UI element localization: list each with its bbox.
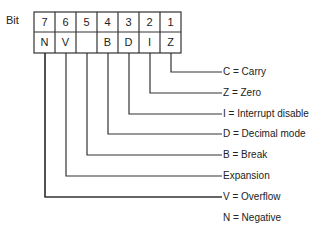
legend-zero: Z = Zero [223, 87, 261, 99]
flag-unused [76, 32, 97, 52]
bit-number-6: 6 [55, 12, 76, 32]
flag-V: V [55, 32, 76, 52]
legend-overflow: V = Overflow [223, 191, 281, 203]
flag-I: I [139, 32, 160, 52]
bit-number-5: 5 [76, 12, 97, 32]
legend-break: B = Break [223, 149, 267, 161]
legend-expansion: Expansion [223, 170, 270, 182]
bit-number-4: 4 [97, 12, 118, 32]
bit-number-2: 2 [139, 12, 160, 32]
flag-D: D [118, 32, 139, 52]
bit-number-7: 7 [34, 12, 55, 32]
bit-number-0-spacer [160, 12, 181, 32]
legend-carry: C = Carry [223, 66, 266, 78]
flag-B: B [97, 32, 118, 52]
bit-number-3: 3 [118, 12, 139, 32]
legend-negative: N = Negative [223, 212, 281, 224]
legend-decimal-mode: D = Decimal mode [223, 128, 306, 140]
legend-interrupt-disable: I = Interrupt disable [223, 108, 309, 120]
flag-Z: Z [160, 32, 181, 52]
flag-N: N [34, 32, 55, 52]
